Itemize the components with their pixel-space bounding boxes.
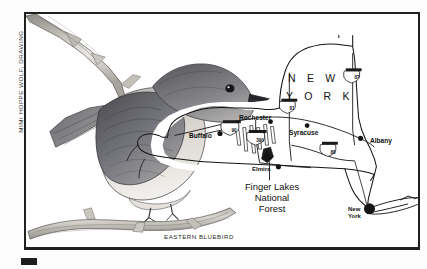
map-state-label-line2: Y O R K (286, 90, 354, 102)
great-lakes-shore (127, 145, 145, 178)
shield-number-90: 90 (225, 128, 243, 133)
forest-label-line3: Forest (224, 204, 320, 215)
long-island (370, 196, 418, 214)
artist-credit-vertical: MIMI HOPPE WOLF, DRAWING (17, 16, 24, 148)
forest-label-line1: Finger Lakes (224, 182, 320, 193)
map-city-elmira: Elmira (252, 166, 270, 172)
shield-number-390: 390 (251, 138, 269, 143)
illustration-content: N E W Y O R K Buffalo Rochester Syracuse… (26, 14, 418, 247)
nyc-leader (355, 161, 367, 204)
corner-marker (21, 258, 37, 265)
city-dot-buffalo (217, 131, 222, 136)
artwork-canvas: MIMI HOPPE WOLF, DRAWING (0, 0, 427, 269)
map-state-label-line1: N E W (288, 72, 339, 84)
shield-number-88: 88 (325, 150, 341, 155)
shield-number-87: 87 (349, 75, 365, 80)
map-city-new-york-line1: New (348, 206, 360, 212)
shield-number-81: 81 (284, 106, 300, 111)
map-city-new-york-line2: York (348, 213, 361, 219)
species-caption: EASTERN BLUEBIRD (164, 233, 234, 240)
city-dot-elmira (276, 164, 281, 169)
map-city-buffalo: Buffalo (189, 132, 212, 139)
map-city-syracuse: Syracuse (289, 129, 318, 136)
map-city-rochester: Rochester (239, 114, 271, 121)
map-city-albany: Albany (370, 137, 392, 144)
city-dot-syracuse (305, 123, 310, 128)
city-dot-albany (358, 136, 363, 141)
city-dot-new-york (364, 203, 375, 214)
illustration-frame: N E W Y O R K Buffalo Rochester Syracuse… (24, 12, 420, 250)
forest-label-line2: National (224, 193, 320, 204)
